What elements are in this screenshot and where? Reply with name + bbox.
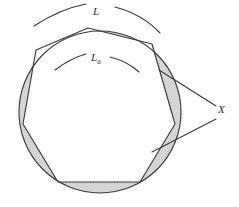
hint-arc-top-left-icon: [34, 4, 86, 26]
label-X: X: [218, 104, 225, 115]
label-L0: L0: [91, 52, 101, 66]
label-L: L: [93, 6, 99, 17]
diagram-canvas: [0, 0, 239, 207]
figure-container: L L0 X: [0, 0, 239, 207]
hint-arc-top-right-icon: [115, 7, 160, 33]
label-L0-subscript: 0: [97, 58, 101, 66]
